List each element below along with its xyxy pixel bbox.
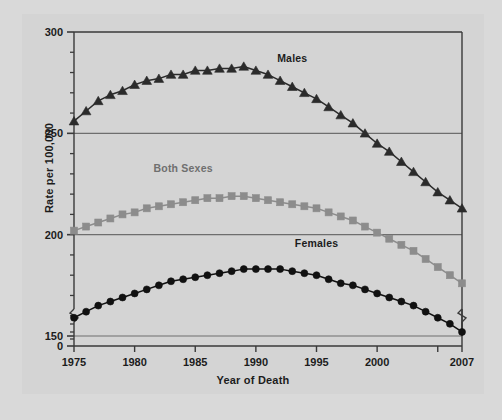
data-point-both-sexes-1983: [168, 201, 175, 208]
series-label-males: Males: [277, 52, 307, 64]
data-point-females-1976: [83, 308, 90, 315]
data-point-both-sexes-2004: [422, 255, 429, 262]
data-point-both-sexes-1985: [192, 197, 199, 204]
data-point-both-sexes-1978: [107, 215, 114, 222]
data-point-females-1984: [180, 276, 187, 283]
data-point-females-1999: [362, 286, 369, 293]
data-point-both-sexes-2005: [434, 264, 441, 271]
data-point-both-sexes-1980: [131, 209, 138, 216]
data-point-both-sexes-1982: [155, 203, 162, 210]
data-point-females-2003: [410, 302, 417, 309]
x-tick-label-1995: 1995: [304, 356, 328, 368]
data-point-both-sexes-1986: [204, 195, 211, 202]
plot-svg: 0150200250300 19751980198519901995200020…: [22, 14, 484, 394]
data-point-females-1990: [252, 266, 259, 273]
data-point-females-1987: [216, 270, 223, 277]
data-point-both-sexes-1989: [240, 193, 247, 200]
data-point-both-sexes-1976: [83, 223, 90, 230]
data-point-females-2002: [398, 298, 405, 305]
data-point-both-sexes-1998: [349, 217, 356, 224]
x-tick-label-1975: 1975: [62, 356, 86, 368]
data-point-males-2001: [384, 147, 394, 155]
series-females: [71, 266, 466, 336]
data-point-males-1996: [324, 102, 334, 110]
data-point-females-1997: [337, 280, 344, 287]
data-point-both-sexes-2001: [386, 235, 393, 242]
data-point-males-1994: [300, 88, 310, 96]
y-tick-label-150: 150: [45, 330, 63, 342]
data-point-females-2000: [374, 290, 381, 297]
data-point-males-1989: [239, 62, 249, 70]
data-point-both-sexes-1993: [289, 201, 296, 208]
data-point-both-sexes-1997: [337, 213, 344, 220]
data-point-females-1985: [192, 274, 199, 281]
data-point-both-sexes-2002: [398, 241, 405, 248]
series-annotations: MalesBoth SexesFemales: [154, 52, 339, 248]
data-point-females-1980: [131, 290, 138, 297]
data-point-females-2004: [422, 308, 429, 315]
data-point-both-sexes-2007: [459, 280, 466, 287]
data-point-females-1992: [277, 266, 284, 273]
x-tick-label-2000: 2000: [365, 356, 389, 368]
data-point-females-2005: [434, 314, 441, 321]
data-point-both-sexes-1990: [252, 195, 259, 202]
data-point-females-1978: [107, 298, 114, 305]
x-axis-ticks: [74, 346, 462, 352]
data-point-both-sexes-1977: [95, 219, 102, 226]
chart-figure-root: Rate per 100,000 Year of Death 015020025…: [0, 0, 502, 420]
data-point-males-1997: [336, 110, 346, 118]
data-point-females-1979: [119, 294, 126, 301]
data-point-both-sexes-1988: [228, 193, 235, 200]
data-point-females-1986: [204, 272, 211, 279]
y-axis-ticks: [67, 32, 74, 346]
data-point-both-sexes-1991: [265, 197, 272, 204]
series-males: [69, 62, 467, 212]
series-label-both-sexes: Both Sexes: [154, 162, 213, 174]
data-point-females-1989: [240, 266, 247, 273]
x-axis-tick-labels: 1975198019851990199520002007: [62, 356, 474, 368]
data-point-males-1977: [93, 96, 103, 104]
data-point-males-2006: [445, 196, 455, 204]
x-tick-label-1985: 1985: [183, 356, 207, 368]
x-axis-title: Year of Death: [22, 374, 484, 386]
data-point-females-1977: [95, 302, 102, 309]
data-point-females-1998: [349, 282, 356, 289]
chart-figure: Rate per 100,000 Year of Death 015020025…: [22, 14, 484, 394]
data-point-females-2006: [446, 320, 453, 327]
data-point-females-1991: [265, 266, 272, 273]
x-tick-label-1990: 1990: [244, 356, 268, 368]
data-point-both-sexes-2003: [410, 247, 417, 254]
data-point-females-1975: [71, 314, 78, 321]
data-point-females-1982: [155, 282, 162, 289]
x-tick-label-2007: 2007: [450, 356, 474, 368]
series-label-females: Females: [295, 237, 338, 249]
data-point-both-sexes-1975: [71, 227, 78, 234]
data-point-males-2007: [457, 204, 467, 212]
data-point-females-2007: [459, 328, 466, 335]
data-point-females-1988: [228, 268, 235, 275]
gridlines-group: [74, 133, 462, 234]
data-point-both-sexes-1981: [143, 205, 150, 212]
x-tick-label-1980: 1980: [122, 356, 146, 368]
data-point-females-1996: [325, 276, 332, 283]
data-point-females-1981: [143, 286, 150, 293]
data-point-both-sexes-1979: [119, 211, 126, 218]
data-point-females-1995: [313, 272, 320, 279]
y-tick-label-300: 300: [45, 26, 63, 38]
data-point-both-sexes-1996: [325, 209, 332, 216]
plot-frame: [70, 32, 466, 346]
data-point-males-1992: [275, 76, 285, 84]
data-point-both-sexes-1999: [362, 223, 369, 230]
data-point-males-1979: [118, 86, 128, 94]
data-point-both-sexes-2006: [446, 272, 453, 279]
data-point-females-2001: [386, 294, 393, 301]
data-point-both-sexes-2000: [374, 229, 381, 236]
data-point-both-sexes-1987: [216, 195, 223, 202]
data-point-females-1983: [168, 278, 175, 285]
data-point-both-sexes-1995: [313, 205, 320, 212]
data-point-both-sexes-1994: [301, 203, 308, 210]
data-point-both-sexes-1984: [180, 199, 187, 206]
y-axis-title: Rate per 100,000: [43, 103, 55, 233]
data-point-males-1995: [312, 94, 322, 102]
data-point-both-sexes-1992: [277, 199, 284, 206]
